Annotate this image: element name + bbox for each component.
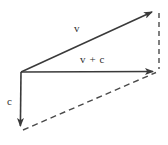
vector-v-plus-c-line — [21, 72, 153, 73]
vector-c-line — [20, 72, 21, 126]
vector-diagram-canvas — [0, 0, 168, 145]
vector-diagram-figure: v v + c c — [0, 0, 168, 145]
vector-v-label: v — [74, 23, 80, 34]
vector-c-label: c — [7, 96, 12, 107]
vector-v-plus-c-label: v + c — [80, 54, 105, 65]
construction-line-diagonal-dashed — [23, 73, 156, 131]
